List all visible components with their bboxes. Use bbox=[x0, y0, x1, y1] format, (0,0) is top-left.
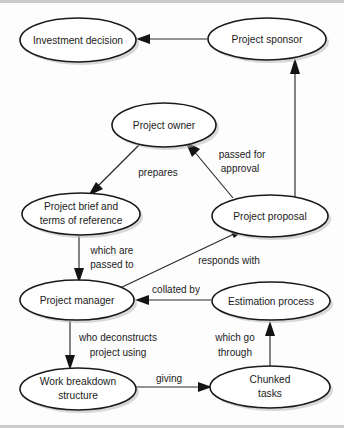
node-work-breakdown-label-line2: structure bbox=[58, 390, 98, 401]
edge-brief-to-manager bbox=[74, 236, 84, 283]
edge-label-who-deconstructs-line2: project using bbox=[90, 347, 147, 358]
node-work-breakdown-structure[interactable]: Work breakdown structure bbox=[20, 368, 139, 413]
node-chunked-tasks-label-line1: Chunked bbox=[250, 374, 291, 385]
edge-manager-to-wbs bbox=[65, 321, 75, 370]
relationship-diagram: Investment decision Project sponsor Proj… bbox=[0, 0, 344, 428]
edge-chunked-to-estimation bbox=[265, 321, 275, 366]
edge-label-passed-for-approval-line1: passed for bbox=[219, 149, 266, 160]
edge-label-collated-by: collated by bbox=[152, 284, 200, 295]
node-project-manager-label: Project manager bbox=[40, 295, 115, 306]
node-estimation-process-label: Estimation process bbox=[228, 296, 314, 307]
edge-proposal-to-sponsor bbox=[290, 58, 300, 198]
edge-label-which-are-passed-to-line2: passed to bbox=[90, 259, 134, 270]
node-investment-decision[interactable]: Investment decision bbox=[20, 18, 139, 65]
node-project-sponsor-label: Project sponsor bbox=[232, 34, 303, 45]
edge-label-which-are-passed-to-line1: which are bbox=[90, 245, 134, 256]
node-project-sponsor[interactable]: Project sponsor bbox=[208, 18, 329, 63]
node-chunked-tasks[interactable]: Chunked tasks bbox=[210, 366, 333, 411]
node-project-brief-label-line2: terms of reference bbox=[40, 215, 123, 226]
node-project-proposal[interactable]: Project proposal bbox=[212, 195, 331, 240]
node-chunked-tasks-label-line2: tasks bbox=[258, 388, 282, 399]
edge-label-which-go-through-line2: through bbox=[218, 347, 252, 358]
edge-label-giving: giving bbox=[156, 373, 182, 384]
node-work-breakdown-label-line1: Work breakdown bbox=[40, 376, 116, 387]
edge-owner-to-brief bbox=[88, 144, 140, 196]
node-project-manager[interactable]: Project manager bbox=[20, 280, 137, 323]
page-edge-top bbox=[0, 0, 344, 3]
node-project-brief[interactable]: Project brief and terms of reference bbox=[22, 193, 143, 238]
diagram-canvas-container: Investment decision Project sponsor Proj… bbox=[0, 0, 344, 428]
edge-label-who-deconstructs-line1: who deconstructs bbox=[78, 332, 157, 343]
node-project-owner-label: Project owner bbox=[133, 120, 196, 131]
node-project-proposal-label: Project proposal bbox=[233, 211, 307, 222]
node-investment-decision-label: Investment decision bbox=[33, 35, 123, 46]
edge-sponsor-to-investment bbox=[136, 34, 207, 44]
edge-label-which-go-through-line1: which go bbox=[214, 332, 255, 343]
edge-estimation-to-manager bbox=[135, 295, 211, 305]
edge-label-prepares: prepares bbox=[138, 167, 177, 178]
node-estimation-process[interactable]: Estimation process bbox=[212, 282, 333, 323]
edge-label-responds-with: responds with bbox=[198, 255, 260, 266]
edge-label-passed-for-approval-line2: approval bbox=[221, 163, 259, 174]
node-project-owner[interactable]: Project owner bbox=[112, 103, 219, 150]
node-project-brief-label-line1: Project brief and bbox=[44, 201, 119, 212]
